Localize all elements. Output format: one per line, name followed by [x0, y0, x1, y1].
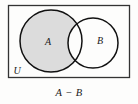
set-b-label: B [97, 35, 103, 46]
figure-caption: A − B [55, 87, 83, 98]
venn-diagram-figure: A B U A − B [0, 0, 138, 104]
set-a-label: A [44, 36, 52, 47]
venn-diagram-canvas: A B U A − B [0, 0, 138, 104]
universe-label: U [13, 65, 21, 76]
